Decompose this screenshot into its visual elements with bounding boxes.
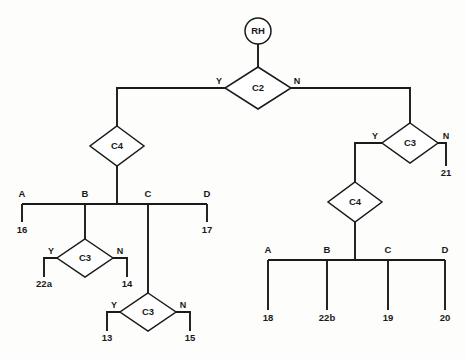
terminal-label-20: 20 — [440, 312, 451, 323]
terminal-label-17: 17 — [202, 224, 213, 235]
branch-label-c3-left-upper-yes: Y — [48, 246, 54, 256]
branch-label-c2-no: N — [294, 76, 301, 86]
decision-node-label: C3 — [79, 252, 91, 263]
start-node-rh[interactable]: RH — [245, 18, 271, 44]
branch-label-c3-left-lower-no: N — [180, 300, 187, 310]
decision-node-c3-left-upper[interactable]: C3 — [57, 239, 113, 277]
terminal-label-15: 15 — [185, 332, 196, 343]
decision-node-label: C3 — [404, 137, 416, 148]
start-node-label: RH — [251, 25, 265, 36]
terminal-label-19: 19 — [383, 312, 394, 323]
bus-right-port-label-c: C — [385, 244, 392, 255]
decision-node-c2[interactable]: C2 — [225, 67, 291, 109]
bus-left-port-label-b: B — [82, 188, 89, 199]
flowchart-svg: RH C2 C4 C3 C3 C3 C4 Y N Y N — [0, 0, 466, 360]
edge-c3-left-upper-no — [113, 258, 127, 277]
terminal-label-22a: 22a — [36, 278, 53, 289]
edge-c3-left-upper-yes — [44, 258, 57, 277]
terminal-label-18: 18 — [263, 312, 274, 323]
terminal-label-14: 14 — [122, 278, 133, 289]
terminal-label-22b: 22b — [319, 312, 336, 323]
branch-label-c3-right-no: N — [443, 131, 450, 141]
terminal-label-21: 21 — [441, 167, 452, 178]
decision-node-label: C4 — [349, 196, 362, 207]
decision-node-label: C2 — [252, 82, 264, 93]
terminal-label-16: 16 — [17, 224, 28, 235]
terminal-label-13: 13 — [102, 332, 113, 343]
bus-left-port-label-a: A — [19, 188, 26, 199]
branch-label-c3-right-yes: Y — [372, 131, 378, 141]
decision-node-label: C4 — [111, 140, 124, 151]
edge-c3-right-no — [438, 143, 446, 166]
decision-node-c3-left-lower[interactable]: C3 — [120, 293, 176, 331]
edge-c3-left-lower-yes — [107, 312, 120, 331]
diagram-canvas: RH C2 C4 C3 C3 C3 C4 Y N Y N — [0, 0, 466, 360]
decision-node-c4-left[interactable]: C4 — [90, 126, 144, 166]
decision-node-c4-right[interactable]: C4 — [328, 182, 382, 222]
bus-right-port-label-b: B — [324, 244, 331, 255]
branch-label-c2-yes: Y — [216, 76, 222, 86]
bus-right-port-label-d: D — [442, 244, 449, 255]
decision-node-c3-right[interactable]: C3 — [382, 123, 438, 163]
branch-label-c3-left-lower-yes: Y — [111, 300, 117, 310]
decision-node-label: C3 — [142, 306, 154, 317]
edge-c3-right-yes — [355, 143, 382, 182]
edge-c3-left-lower-no — [176, 312, 190, 331]
edge-c2-no-trunk — [291, 88, 410, 123]
bus-left-port-label-c: C — [145, 188, 152, 199]
bus-left-port-label-d: D — [204, 188, 211, 199]
branch-label-c3-left-upper-no: N — [117, 246, 124, 256]
edge-c2-yes-trunk — [117, 88, 225, 126]
bus-right-port-label-a: A — [265, 244, 272, 255]
